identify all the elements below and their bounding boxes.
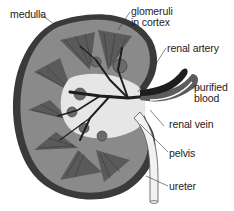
renal-pelvis <box>61 74 146 139</box>
label-renal-artery: renal artery <box>167 43 219 54</box>
label-glomeruli-line2: in cortex <box>131 17 181 28</box>
label-renal-vein: renal vein <box>169 119 214 130</box>
label-ureter: ureter <box>169 181 196 192</box>
kidney-diagram <box>0 0 234 211</box>
label-pelvis: pelvis <box>169 148 195 159</box>
label-glomeruli: glomeruli in cortex <box>131 6 181 28</box>
ureter-opening <box>150 200 158 203</box>
label-purified-blood: purified blood <box>194 82 234 104</box>
label-medulla: medulla <box>10 9 46 20</box>
label-purified-line2: blood <box>194 93 234 104</box>
